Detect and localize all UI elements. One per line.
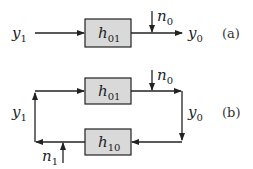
signal-y1-label: y1 bbox=[11, 103, 27, 123]
output-y0-label: y0 bbox=[187, 24, 203, 44]
diagram-a: y1 h01 n0 y0 (a) bbox=[11, 7, 240, 47]
noise-n0-b-label: n0 bbox=[157, 66, 173, 86]
tag-b: (b) bbox=[222, 105, 240, 120]
diagram-b: h01 n0 y0 (b) h10 y1 n1 bbox=[11, 66, 240, 167]
signal-y0-label: y0 bbox=[187, 103, 203, 123]
block-diagram: y1 h01 n0 y0 (a) h01 n0 y0 (b) h10 y1 n1 bbox=[0, 0, 253, 169]
input-y1-label: y1 bbox=[11, 24, 27, 44]
noise-n1-label: n1 bbox=[42, 147, 58, 167]
tag-a: (a) bbox=[222, 26, 240, 41]
noise-n0-label: n0 bbox=[157, 7, 173, 27]
